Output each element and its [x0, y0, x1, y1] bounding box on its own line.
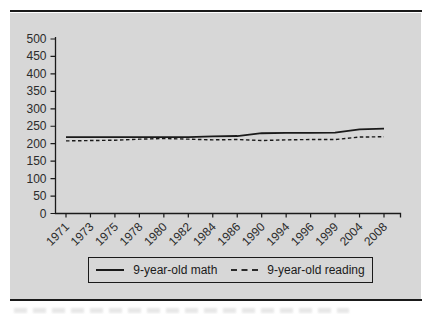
x-axis-tick-label: 1984 [190, 219, 219, 248]
x-axis-tick-label: 1990 [239, 219, 268, 248]
legend-item-math: 9-year-old math [96, 263, 217, 277]
legend-label-reading: 9-year-old reading [267, 263, 364, 277]
y-axis-ticks [51, 39, 56, 214]
series-line-math [66, 129, 384, 137]
x-axis-tick-label: 1978 [117, 219, 146, 248]
x-axis-tick-label: 2008 [361, 219, 390, 248]
y-axis-tick-label: 350 [26, 84, 46, 98]
dashed-line-swatch [231, 269, 258, 271]
x-axis-tick-label: 1971 [43, 219, 72, 248]
y-axis-tick-label: 0 [40, 207, 47, 221]
y-axis-tick-label: 500 [26, 32, 46, 46]
legend-label-math: 9-year-old math [133, 263, 217, 277]
y-axis-tick-label: 450 [26, 49, 46, 63]
axes [56, 37, 401, 218]
chart-legend: 9-year-old math 9-year-old reading [88, 257, 373, 283]
x-axis-tick-label: 1994 [263, 219, 292, 248]
x-axis-tick-label: 1996 [288, 219, 317, 248]
x-axis-tick-label: 1999 [312, 219, 341, 248]
y-axis-tick-label: 200 [26, 137, 46, 151]
x-axis-tick-label: 1973 [68, 219, 97, 248]
x-axis-tick-label: 1982 [166, 219, 195, 248]
y-axis-tick-label: 50 [33, 189, 47, 203]
solid-line-swatch [96, 269, 124, 271]
legend-item-reading: 9-year-old reading [231, 263, 364, 277]
y-axis-tick-label: 300 [26, 102, 46, 116]
y-axis-tick-label: 250 [26, 119, 46, 133]
x-axis-tick-label: 1986 [215, 219, 244, 248]
x-axis-tick-label: 1980 [141, 219, 170, 248]
y-axis-tick-label: 400 [26, 67, 46, 81]
bottom-rule [10, 299, 422, 301]
y-axis-tick-label: 100 [26, 172, 46, 186]
figure: 0501001502002503003504004505001971197319… [0, 0, 427, 314]
cropped-caption-remnant [14, 308, 349, 313]
y-axis-tick-label: 150 [26, 154, 46, 168]
x-axis-tick-label: 2004 [337, 219, 366, 248]
x-axis-tick-label: 1975 [92, 219, 121, 248]
